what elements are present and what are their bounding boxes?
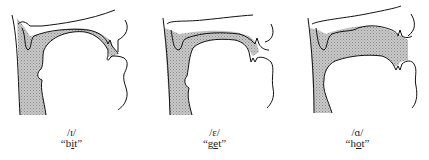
example-word: “get”	[143, 137, 286, 149]
vocal-tract-diagram-a	[286, 0, 429, 125]
example-word: “bit”	[0, 137, 143, 149]
vocal-tract-panel-get: /ɛ/ “get”	[143, 0, 286, 160]
example-word: “hot”	[286, 137, 429, 149]
vocal-tract-diagram-i	[0, 0, 143, 125]
vocal-tract-panel-bit: /ɪ/ “bit”	[0, 0, 143, 160]
vocal-tract-panel-hot: /ɑ/ “hot”	[286, 0, 429, 160]
vocal-tract-diagram-e	[143, 0, 286, 125]
